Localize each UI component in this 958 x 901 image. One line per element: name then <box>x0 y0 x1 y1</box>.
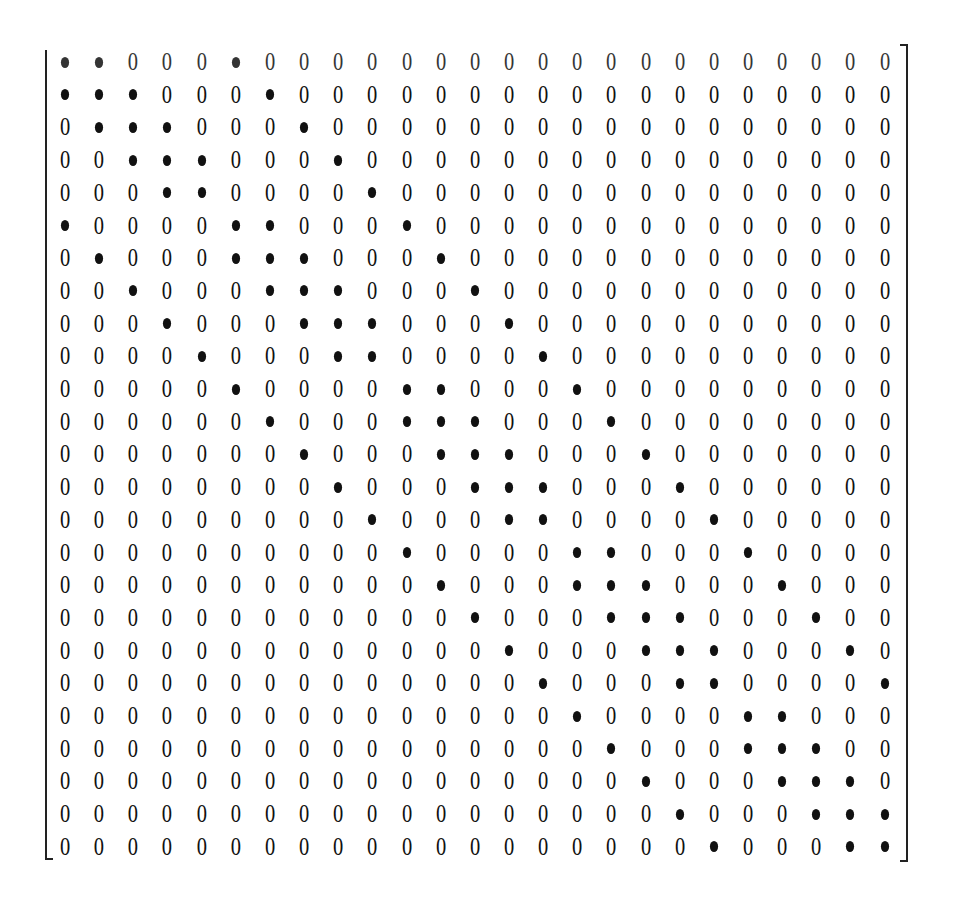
matrix-entry-nonzero <box>702 832 727 862</box>
matrix-entry-zero <box>599 832 624 862</box>
matrix-entry-zero <box>394 701 419 731</box>
matrix-entry-nonzero <box>428 243 453 273</box>
matrix-entry-zero <box>838 341 863 371</box>
matrix-entry-zero <box>804 439 829 469</box>
matrix-entry-zero <box>633 832 658 862</box>
matrix-entry-nonzero <box>462 276 487 306</box>
matrix-entry-zero <box>53 832 78 862</box>
matrix-entry-zero <box>394 112 419 142</box>
matrix-entry-zero <box>838 439 863 469</box>
matrix-entry-zero <box>189 636 214 666</box>
matrix-entry-zero <box>394 472 419 502</box>
matrix-entry-zero <box>497 211 522 241</box>
matrix-entry-zero <box>804 276 829 306</box>
matrix-entry-nonzero <box>770 734 795 764</box>
matrix-entry-zero <box>394 243 419 273</box>
sparse-matrix <box>0 0 958 901</box>
matrix-entry-zero <box>155 734 180 764</box>
matrix-entry-nonzero <box>292 309 317 339</box>
matrix-entry-zero <box>292 47 317 77</box>
matrix-entry-zero <box>804 668 829 698</box>
matrix-entry-zero <box>326 112 351 142</box>
matrix-entry-zero <box>565 832 590 862</box>
matrix-entry-nonzero <box>292 243 317 273</box>
matrix-entry-nonzero <box>531 668 556 698</box>
matrix-entry-zero <box>87 472 112 502</box>
matrix-entry-zero <box>599 374 624 404</box>
matrix-entry-zero <box>258 570 283 600</box>
matrix-entry-zero <box>872 374 897 404</box>
matrix-entry-zero <box>326 374 351 404</box>
matrix-entry-zero <box>121 505 146 535</box>
matrix-entry-zero <box>462 112 487 142</box>
matrix-entry-zero <box>531 243 556 273</box>
matrix-entry-zero <box>872 636 897 666</box>
matrix-entry-nonzero <box>121 276 146 306</box>
matrix-entry-zero <box>770 145 795 175</box>
matrix-entry-nonzero <box>326 341 351 371</box>
matrix-entry-zero <box>394 668 419 698</box>
matrix-entry-nonzero <box>394 374 419 404</box>
matrix-entry-zero <box>770 832 795 862</box>
matrix-entry-nonzero <box>872 832 897 862</box>
matrix-entry-zero <box>258 799 283 829</box>
matrix-entry-zero <box>121 407 146 437</box>
matrix-entry-zero <box>326 668 351 698</box>
matrix-entry-nonzero <box>326 145 351 175</box>
matrix-entry-zero <box>121 636 146 666</box>
matrix-entry-zero <box>531 538 556 568</box>
matrix-entry-zero <box>292 538 317 568</box>
matrix-entry-zero <box>497 570 522 600</box>
matrix-entry-zero <box>804 538 829 568</box>
matrix-entry-zero <box>667 211 692 241</box>
matrix-entry-zero <box>497 112 522 142</box>
matrix-entry-zero <box>326 439 351 469</box>
matrix-entry-nonzero <box>531 472 556 502</box>
matrix-entry-zero <box>121 668 146 698</box>
matrix-entry-nonzero <box>667 472 692 502</box>
matrix-entry-zero <box>223 341 248 371</box>
matrix-entry-zero <box>599 243 624 273</box>
matrix-entry-zero <box>360 80 385 110</box>
matrix-entry-zero <box>223 145 248 175</box>
matrix-entry-zero <box>53 505 78 535</box>
matrix-entry-zero <box>87 766 112 796</box>
matrix-entry-zero <box>121 538 146 568</box>
matrix-entry-zero <box>223 538 248 568</box>
matrix-entry-zero <box>497 47 522 77</box>
matrix-entry-zero <box>667 80 692 110</box>
matrix-entry-zero <box>736 799 761 829</box>
matrix-entry-zero <box>53 603 78 633</box>
matrix-entry-zero <box>189 832 214 862</box>
matrix-entry-nonzero <box>462 603 487 633</box>
matrix-entry-zero <box>531 439 556 469</box>
matrix-entry-nonzero <box>53 80 78 110</box>
matrix-entry-zero <box>292 766 317 796</box>
matrix-entry-zero <box>189 701 214 731</box>
matrix-entry-zero <box>189 276 214 306</box>
matrix-entry-zero <box>770 47 795 77</box>
matrix-entry-zero <box>87 701 112 731</box>
matrix-entry-zero <box>702 112 727 142</box>
matrix-entry-zero <box>189 439 214 469</box>
matrix-entry-nonzero <box>326 276 351 306</box>
matrix-entry-zero <box>223 407 248 437</box>
matrix-entry-zero <box>360 439 385 469</box>
matrix-entry-zero <box>565 439 590 469</box>
matrix-entry-nonzero <box>565 701 590 731</box>
matrix-entry-nonzero <box>497 505 522 535</box>
matrix-entry-zero <box>360 538 385 568</box>
matrix-entry-zero <box>770 407 795 437</box>
matrix-entry-zero <box>428 211 453 241</box>
matrix-entry-nonzero <box>702 668 727 698</box>
matrix-entry-zero <box>565 178 590 208</box>
matrix-entry-zero <box>53 570 78 600</box>
matrix-entry-zero <box>155 341 180 371</box>
matrix-entry-zero <box>804 636 829 666</box>
matrix-entry-zero <box>667 47 692 77</box>
matrix-entry-zero <box>838 145 863 175</box>
matrix-entry-zero <box>87 341 112 371</box>
matrix-entry-nonzero <box>838 832 863 862</box>
matrix-entry-zero <box>667 407 692 437</box>
matrix-entry-zero <box>326 47 351 77</box>
